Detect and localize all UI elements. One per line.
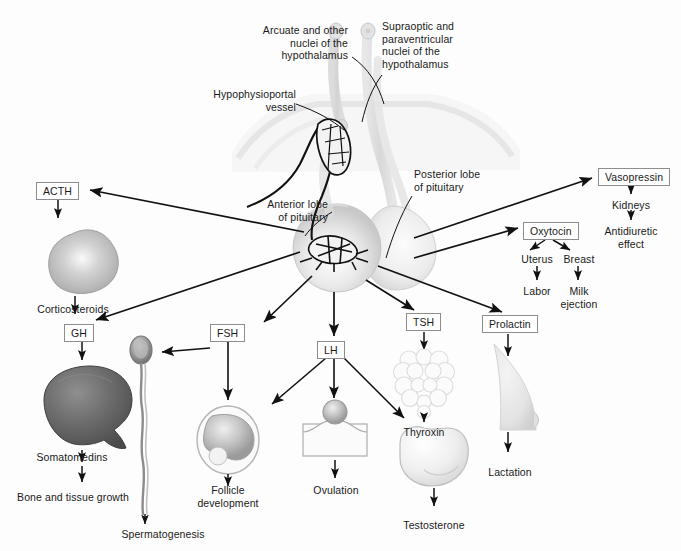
breast-illustration	[494, 344, 539, 430]
hormone-box-gh[interactable]: GH	[64, 324, 94, 342]
thyroid-gland-illustration	[394, 349, 455, 419]
outcome-thyroxin: Thyroxin	[382, 426, 466, 439]
outcome-spermatogenesis: Spermatogenesis	[93, 528, 233, 541]
label-posterior-lobe: Posterior lobe of pituitary	[414, 168, 514, 193]
hormone-box-acth[interactable]: ACTH	[36, 182, 79, 200]
outcome-bone-tissue-growth: Bone and tissue growth	[3, 491, 143, 504]
hormone-box-tsh[interactable]: TSH	[406, 313, 441, 331]
prolactin-branch	[494, 334, 539, 452]
outcome-lactation: Lactation	[466, 466, 554, 479]
outcome-follicle-development: Follicle development	[178, 484, 278, 509]
outcome-kidneys: Kidneys	[591, 199, 671, 212]
hormone-box-prolactin[interactable]: Prolactin	[482, 315, 538, 333]
pituitary-hormone-diagram: Arcuate and other nuclei of the hypothal…	[0, 0, 681, 551]
diagram-vector-layer	[0, 0, 681, 551]
outcome-corticosteroids: Corticosteroids	[13, 303, 133, 316]
ovulation-illustration	[303, 400, 367, 478]
label-arcuate-nuclei: Arcuate and other nuclei of the hypothal…	[228, 24, 348, 62]
ovarian-follicle-illustration	[197, 406, 259, 486]
hormone-box-lh[interactable]: LH	[317, 341, 345, 359]
outcome-milk-ejection: Milk ejection	[551, 285, 607, 310]
outcome-antidiuretic-effect: Antidiuretic effect	[591, 225, 671, 250]
tsh-branch	[394, 332, 455, 422]
label-supraoptic-nuclei: Supraoptic and paraventricular nuclei of…	[382, 20, 502, 70]
outcome-somatomedins: Somatomedins	[12, 451, 132, 464]
testis-illustration	[400, 427, 468, 506]
outcome-ovulation: Ovulation	[291, 484, 381, 497]
label-hypophysioportal-vessel: Hypophysioportal vessel	[186, 88, 296, 113]
hormone-box-fsh[interactable]: FSH	[210, 324, 245, 342]
outcome-breast: Breast	[550, 253, 608, 266]
acth-branch	[49, 200, 119, 314]
label-anterior-lobe: Anterior lobe of pituitary	[228, 198, 328, 223]
outcome-testosterone: Testosterone	[376, 519, 492, 532]
hormone-box-oxytocin[interactable]: Oxytocin	[523, 222, 579, 240]
hormone-box-vasopressin[interactable]: Vasopressin	[598, 168, 670, 186]
